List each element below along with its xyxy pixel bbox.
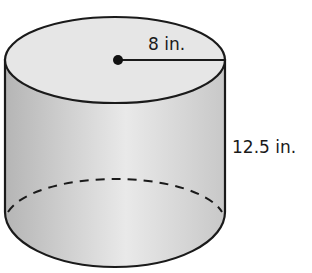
height-label: 12.5 in. <box>232 137 296 157</box>
center-point <box>113 55 123 65</box>
cylinder-diagram: 8 in. 12.5 in. <box>0 0 312 273</box>
radius-label: 8 in. <box>148 34 185 54</box>
